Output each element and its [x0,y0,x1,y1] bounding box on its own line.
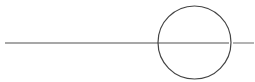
diagram-canvas [0,0,255,82]
diagram-svg [0,0,255,82]
